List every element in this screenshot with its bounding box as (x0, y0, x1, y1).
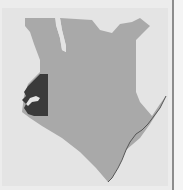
kenya-map (0, 0, 172, 190)
right-strip (174, 0, 183, 190)
map-frame (0, 0, 172, 190)
highlighted-region-western[interactable] (22, 74, 48, 116)
